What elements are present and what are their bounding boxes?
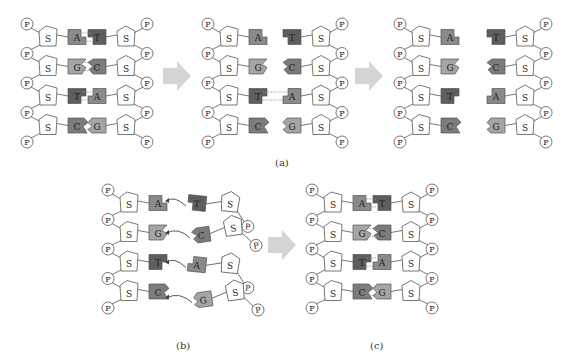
sugar-label: S (45, 93, 51, 103)
phosphate-label: P (339, 79, 345, 88)
free-nucleotide: ASP (186, 249, 258, 295)
glycosidic-bond (391, 290, 402, 292)
backbone-line (329, 45, 338, 50)
panel-c: PPPPPPPPPPSSATSSGCSSTASSCG (306, 184, 438, 314)
phosphate-label: P (24, 138, 30, 147)
base-label-T: T (493, 33, 499, 43)
backbone-line (533, 75, 542, 80)
backbone-line (419, 283, 428, 288)
base-label-T: T (447, 92, 453, 102)
glycosidic-bond (342, 260, 353, 262)
sugar-label: S (226, 93, 232, 103)
phosphate-label: P (144, 109, 150, 118)
backbone-line (419, 194, 428, 199)
backbone-line (31, 28, 40, 33)
backbone-line (533, 104, 542, 109)
backbone-line (134, 104, 143, 109)
sugar-label: S (318, 123, 324, 133)
backbone-line (329, 75, 338, 80)
caption-a: (a) (275, 157, 289, 168)
backbone-line (316, 211, 325, 216)
base-label-A: A (154, 199, 162, 209)
base-label-G: G (154, 229, 161, 239)
base-label-A: A (288, 92, 296, 102)
arrowhead-icon (165, 198, 169, 203)
backbone-line (112, 283, 121, 288)
phosphate-label: P (429, 186, 435, 195)
base-label-A: A (254, 33, 262, 43)
backbone-line (419, 241, 428, 246)
backbone-line (31, 58, 40, 63)
base-label-C: C (94, 63, 101, 73)
sugar-label: S (226, 34, 232, 44)
glycosidic-bond (238, 94, 249, 96)
backbone-line (329, 58, 338, 63)
phosphate-label: P (397, 109, 403, 118)
backbone-line (112, 270, 121, 275)
backbone-line (134, 28, 143, 33)
phosphate-label: P (24, 79, 30, 88)
phosphate-label: P (105, 304, 111, 313)
glycosidic-bond (505, 94, 516, 96)
base-label-G: G (93, 122, 100, 132)
backbone-line (112, 194, 121, 199)
free-nucleotide: CSP (190, 212, 263, 260)
sugar-label: S (418, 64, 424, 74)
backbone-line (404, 104, 413, 109)
sugar-label: S (123, 123, 129, 133)
backbone-line (533, 45, 542, 50)
phosphate-label: P (397, 138, 403, 147)
base-label-C: C (359, 288, 366, 298)
sugar-label: S (126, 230, 132, 240)
sugar-label: S (418, 123, 424, 133)
phosphate-label: P (397, 79, 403, 88)
glycosidic-bond (209, 228, 224, 234)
glycosidic-bond (430, 35, 441, 37)
backbone-line (316, 283, 325, 288)
free-nucleotide: TSP (186, 187, 258, 233)
backbone-line (134, 58, 143, 63)
attach-arrow (167, 199, 186, 206)
panel-a2: PPPPPPPPPPSSATSSGCSSTASSCG (202, 18, 348, 148)
base-label-C: C (155, 288, 162, 298)
backbone-line (134, 117, 143, 122)
backbone-line (212, 58, 221, 63)
phosphate-label: P (205, 79, 211, 88)
backbone-line (31, 104, 40, 109)
base-label-G: G (73, 63, 80, 73)
phosphate-label: P (144, 138, 150, 147)
glycosidic-bond (211, 292, 226, 298)
glycosidic-bond (430, 124, 441, 126)
backbone-line (533, 28, 542, 33)
phosphate-label: P (429, 304, 435, 313)
glycosidic-bond (505, 65, 516, 67)
backbone-line (212, 28, 221, 33)
glycosidic-bond (238, 124, 249, 126)
backbone-line (316, 224, 325, 229)
backbone-line (404, 75, 413, 80)
phosphate-label: P (397, 20, 403, 29)
caption-b: (b) (176, 340, 190, 351)
dna-replication-figure: PPPPPPPPPPSSATSSGCSSTASSCGPPPPPPPPPPSSAT… (0, 0, 573, 361)
backbone-line (31, 134, 40, 139)
sugar-label: S (330, 259, 336, 269)
phosphate-label: P (105, 245, 111, 254)
backbone-line (329, 87, 338, 92)
backbone-line (316, 253, 325, 258)
backbone-line (533, 87, 542, 92)
sugar-label: S (418, 34, 424, 44)
backbone-line (212, 87, 221, 92)
phosphate-label: P (397, 50, 403, 59)
backbone-line (404, 117, 413, 122)
sugar-label: S (226, 123, 232, 133)
phosphate-label: P (205, 109, 211, 118)
base-label-T: T (94, 33, 100, 43)
phosphate-label: P (309, 186, 315, 195)
base-label-T: T (193, 199, 200, 210)
phosphate-label: P (309, 245, 315, 254)
backbone-line (419, 211, 428, 216)
sugar-label: S (226, 199, 233, 210)
phosphate-label: P (309, 275, 315, 284)
base-label-G: G (254, 63, 261, 73)
glycosidic-bond (430, 94, 441, 96)
